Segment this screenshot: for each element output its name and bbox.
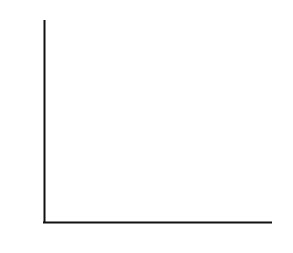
chart-container bbox=[0, 0, 293, 253]
plot-area-background bbox=[44, 24, 266, 222]
violent-crime-rate-line-chart bbox=[0, 0, 293, 253]
